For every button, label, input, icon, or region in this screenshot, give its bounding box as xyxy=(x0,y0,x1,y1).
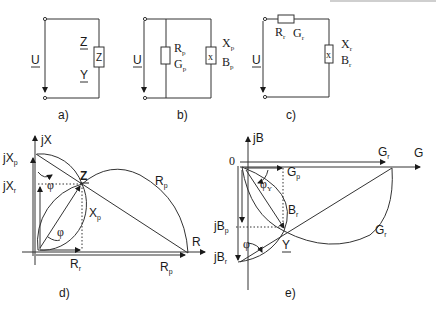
element-z-a: Z xyxy=(96,52,102,63)
label-G-axis: G xyxy=(414,146,423,160)
element-x-b: x xyxy=(208,51,213,62)
label-jXr: jXr xyxy=(2,179,17,194)
label-U-b: U xyxy=(133,53,142,67)
label-Rp-arc: Rp xyxy=(155,174,168,190)
label-phiY: φY xyxy=(260,177,272,193)
element-x-c: x xyxy=(326,49,331,60)
label-jB-axis: jB xyxy=(252,131,264,145)
label-Br-c: Br xyxy=(341,53,352,69)
label-Gr-c: Gr xyxy=(293,26,305,42)
label-Gr-top: Gr xyxy=(378,145,390,160)
label-Gr-arc: Gr xyxy=(375,223,387,238)
label-phi-bottom: φ xyxy=(57,225,64,239)
label-Y-a: Y xyxy=(80,68,88,82)
label-origin: 0 xyxy=(229,154,235,168)
label-jBr: jBr xyxy=(213,250,228,265)
caption-e: e) xyxy=(285,286,296,300)
caption-c: c) xyxy=(286,108,296,122)
label-Rp-d: Rp xyxy=(160,260,173,276)
label-Gp-b: Gp xyxy=(174,57,187,73)
label-U-a: U xyxy=(31,53,40,67)
label-jXp: jXp xyxy=(2,151,18,167)
label-Z-a: Z xyxy=(80,35,87,49)
label-jBp: jBp xyxy=(213,219,229,235)
label-phi-e: φ xyxy=(243,237,250,251)
caption-d: d) xyxy=(59,286,70,300)
label-Rp-b: Rp xyxy=(174,41,186,57)
circuit-a xyxy=(43,17,104,99)
label-U-c: U xyxy=(252,53,261,67)
diagram-canvas: U Z Z Y a) U Rp Gp x Xp Bp b) U Rr Gr x … xyxy=(0,0,436,309)
label-Z-d: Z xyxy=(80,169,87,183)
label-Br-e: Br xyxy=(288,203,299,218)
label-Y-e: Y xyxy=(282,238,290,252)
admittance-diagram xyxy=(236,137,420,290)
label-jX-axis: jX xyxy=(40,133,52,147)
label-Xr-c: Xr xyxy=(341,37,353,53)
label-Xp-d: Xp xyxy=(89,206,101,222)
label-Bp-b: Bp xyxy=(222,55,234,71)
label-phi-top: φ xyxy=(47,178,54,192)
label-Rr-c: Rr xyxy=(275,25,286,41)
caption-a: a) xyxy=(58,108,69,122)
label-R-axis: R xyxy=(192,235,201,249)
label-Xp-b: Xp xyxy=(222,36,235,52)
caption-b: b) xyxy=(177,108,188,122)
label-Rr-d: Rr xyxy=(70,257,82,272)
impedance-diagram xyxy=(22,136,205,265)
